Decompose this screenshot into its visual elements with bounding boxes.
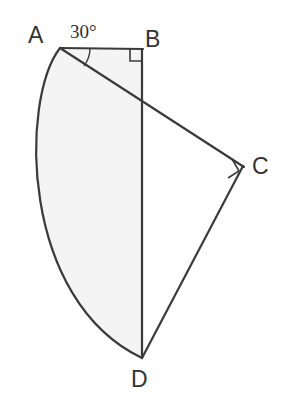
figure-canvas: [0, 0, 288, 408]
vertex-label-d: D: [131, 368, 148, 391]
angle-measure-label: 30°: [70, 22, 97, 41]
segment-CD: [142, 166, 243, 358]
vertex-label-c: C: [252, 155, 269, 178]
segment-AB: [60, 48, 143, 49]
vertex-label-a: A: [28, 24, 43, 47]
geometry-figure: A B C D 30°: [0, 0, 288, 408]
shaded-sector-region: [36, 48, 142, 358]
vertex-label-b: B: [145, 28, 160, 51]
